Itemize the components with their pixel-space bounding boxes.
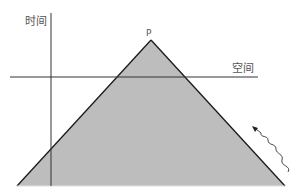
space-axis-label: 空间: [232, 61, 254, 75]
time-axis-label: 时间: [25, 15, 47, 28]
apex-label: P: [146, 28, 152, 38]
light-cone-diagram: 时间 空间 P: [0, 0, 297, 196]
arrowhead-icon: [252, 126, 258, 132]
